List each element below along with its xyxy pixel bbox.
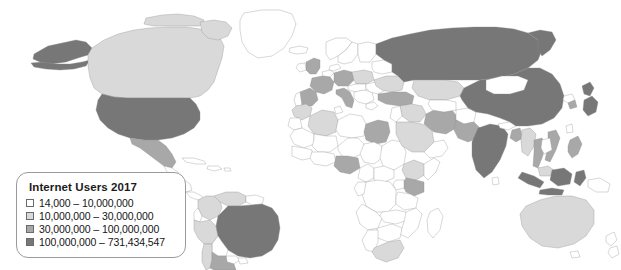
- country-uzbekistan-turkmenistan[interactable]: [428, 100, 456, 112]
- legend-item-1[interactable]: 10,000,000 – 30,000,000: [26, 210, 176, 223]
- legend-label-1: 10,000,000 – 30,000,000: [39, 210, 153, 222]
- legend-swatch-1: [26, 212, 34, 220]
- legend-swatch-2: [26, 225, 34, 233]
- legend-item-2[interactable]: 30,000,000 – 100,000,000: [26, 223, 176, 236]
- legend-swatch-0: [26, 199, 34, 207]
- country-egypt[interactable]: [364, 120, 390, 144]
- legend-item-3[interactable]: 100,000,000 – 731,434,547: [26, 236, 176, 249]
- legend-label-0: 14,000 – 10,000,000: [39, 197, 133, 209]
- country-sri-lanka[interactable]: [492, 177, 499, 185]
- world-map-figure: Internet Users 2017 14,000 – 10,000,000 …: [0, 0, 621, 270]
- legend-item-0[interactable]: 14,000 – 10,000,000: [26, 197, 176, 210]
- legend-swatch-3: [26, 238, 34, 246]
- country-tasmania[interactable]: [570, 251, 580, 258]
- legend-label-3: 100,000,000 – 731,434,547: [39, 236, 165, 248]
- legend-title: Internet Users 2017: [29, 181, 176, 193]
- country-puerto-rico[interactable]: [224, 168, 231, 171]
- map-legend: Internet Users 2017 14,000 – 10,000,000 …: [16, 172, 186, 258]
- legend-label-2: 30,000,000 – 100,000,000: [39, 223, 159, 235]
